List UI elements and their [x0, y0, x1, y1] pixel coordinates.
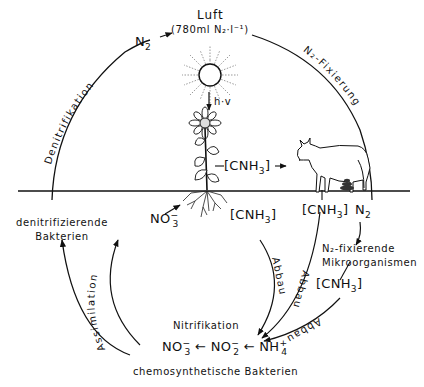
- air-n2-label: N2: [135, 35, 151, 48]
- decomposition-label-microbe: Abbau: [284, 316, 323, 345]
- assimilation-arc: [110, 240, 140, 345]
- cow-icon: [297, 138, 370, 192]
- nitrite: NO−2: [211, 339, 240, 354]
- soil-n2-label: N2: [355, 203, 371, 216]
- denitrifying-bacteria-label: denitrifizierendeBakterien: [13, 218, 111, 242]
- nitrification-label: Nitrifikation: [173, 321, 239, 331]
- light-energy-label: h·v: [214, 97, 231, 107]
- denitrification-label: Denitrifikation: [42, 79, 96, 166]
- fixation-label: N₂-Fixierung: [302, 44, 364, 109]
- air-concentration: (780ml N₂·l⁻¹): [171, 25, 249, 35]
- organic-nitrogen-plant-to-animal: [CNH3]: [224, 159, 270, 172]
- nitrification-chain: NO−3 ← NO−2 ← NH+4: [162, 340, 287, 353]
- sunflower-icon: [189, 107, 221, 190]
- arrow-left-icon: ←: [195, 339, 206, 354]
- organic-nitrogen-animal: [CNH3]: [302, 203, 348, 216]
- decomposition-label-plant: Abbau: [270, 256, 289, 296]
- decomposition-arc-plant: [258, 240, 275, 335]
- nitrate-near-roots: NO−3: [150, 212, 179, 225]
- assimilation-label: Assimilation: [85, 272, 107, 353]
- roots-icon: [183, 191, 227, 217]
- decomposition-label-animal: Abbau: [291, 269, 312, 310]
- chemosynthetic-bacteria-label: chemosynthetische Bakterien: [133, 367, 298, 377]
- air-title: Luft: [197, 9, 224, 21]
- ammonium: NH+4: [259, 339, 287, 354]
- organic-nitrogen-microbes: [CNH3]: [316, 277, 362, 290]
- nitrate: NO−3: [162, 339, 191, 354]
- n2-to-fixers-arrow: [356, 222, 361, 245]
- n2-fixing-microorganisms-label: N₂-fixierendeMikroorganismen: [322, 244, 417, 268]
- arrow-left-icon: ←: [244, 339, 255, 354]
- organic-nitrogen-plant: [CNH3]: [230, 208, 276, 221]
